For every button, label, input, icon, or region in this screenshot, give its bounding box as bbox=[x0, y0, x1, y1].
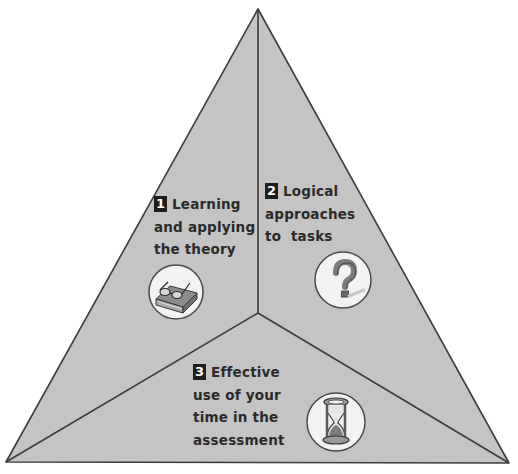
segment-3-line-2: use of your bbox=[193, 384, 285, 407]
segment-1-label: 1Learning and applying the theory bbox=[154, 193, 255, 261]
segment-3-line-3: time in the bbox=[193, 406, 285, 429]
segment-1-title: Learning bbox=[172, 196, 241, 212]
segment-2-line-1: 2Logical bbox=[265, 180, 355, 203]
segment-3-label: 3Effective use of your time in the asses… bbox=[193, 361, 285, 451]
segment-2-line-2: approaches bbox=[265, 203, 355, 226]
segment-3-line-4: assessment bbox=[193, 429, 285, 452]
segment-2-label: 2Logical approaches to tasks bbox=[265, 180, 355, 248]
segment-3-number-badge: 3 bbox=[193, 364, 206, 380]
segment-2-line-3: to tasks bbox=[265, 225, 355, 248]
segment-2-title: Logical bbox=[283, 183, 338, 199]
segment-1-line-3: the theory bbox=[154, 238, 255, 261]
segment-1-line-2: and applying bbox=[154, 216, 255, 239]
segment-2-number-badge: 2 bbox=[265, 183, 278, 199]
hourglass-icon bbox=[307, 393, 365, 451]
book-with-glasses-icon bbox=[149, 265, 203, 319]
segment-1-line-1: 1Learning bbox=[154, 193, 255, 216]
segment-3-line-1: 3Effective bbox=[193, 361, 285, 384]
segment-3-title: Effective bbox=[211, 364, 280, 380]
question-mark-icon bbox=[315, 252, 371, 308]
segment-1-number-badge: 1 bbox=[154, 196, 167, 212]
